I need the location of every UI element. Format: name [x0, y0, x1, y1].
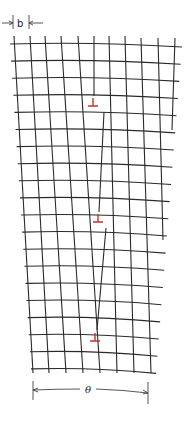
- lattice-column: [14, 36, 33, 373]
- burgers-vector-label: b: [17, 18, 23, 29]
- lattice-column: [78, 36, 100, 373]
- lattice-column: [61, 36, 83, 373]
- lattice-row: [24, 266, 164, 271]
- crystal-lattice: [10, 36, 182, 373]
- lattice-column-partial: [172, 38, 175, 130]
- lattice-column: [141, 38, 151, 373]
- tilt-angle-label: θ: [85, 384, 91, 395]
- lattice-column: [109, 36, 117, 373]
- lattice-column: [45, 36, 66, 373]
- tilt-boundary-diagram: b θ: [0, 0, 192, 425]
- lattice-column-partial: [158, 38, 163, 240]
- lattice-row: [22, 232, 167, 236]
- lattice-row: [13, 95, 178, 99]
- lattice-column: [30, 36, 49, 373]
- lattice-row: [17, 146, 174, 150]
- lattice-row: [11, 60, 181, 64]
- lattice-row: [20, 197, 170, 201]
- lattice-row: [10, 43, 182, 47]
- lattice-column-terminating: [99, 112, 104, 212]
- edge-dislocation-icon: [90, 333, 100, 341]
- lattice-row: [12, 77, 179, 81]
- lattice-row: [27, 300, 162, 305]
- lattice-row: [29, 334, 159, 339]
- lattice-row: [18, 163, 173, 167]
- lattice-canvas: b θ: [0, 0, 192, 425]
- edge-dislocation-icon: [88, 98, 98, 106]
- lattice-row: [16, 129, 176, 133]
- lattice-row: [19, 180, 171, 184]
- lattice-row: [30, 351, 157, 356]
- lattice-column-terminating: [97, 228, 106, 330]
- lattice-row: [31, 369, 156, 374]
- lattice-row: [23, 249, 165, 253]
- lattice-column: [125, 36, 134, 373]
- lattice-row: [28, 317, 160, 322]
- lattice-row: [14, 112, 176, 116]
